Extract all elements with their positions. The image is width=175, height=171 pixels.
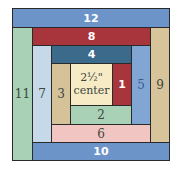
center-label: center	[74, 85, 110, 98]
strip-5-label: 5	[137, 79, 145, 91]
strip-1-label: 1	[118, 79, 126, 90]
strip-11: 11	[12, 27, 33, 161]
strip-3-label: 3	[57, 88, 65, 100]
strip-10: 10	[32, 142, 170, 161]
strip-6: 6	[51, 124, 151, 143]
strip-4: 4	[51, 45, 132, 64]
strip-8: 8	[32, 27, 151, 46]
strip-2: 2	[70, 105, 132, 125]
strip-11-label: 11	[15, 88, 30, 100]
strip-12-label: 12	[83, 13, 98, 24]
strip-10-label: 10	[93, 146, 108, 157]
strip-12: 12	[12, 8, 170, 28]
strip-9: 9	[150, 27, 170, 143]
strip-7-label: 7	[38, 88, 46, 100]
strip-2-label: 2	[97, 109, 105, 121]
strip-5: 5	[131, 45, 151, 125]
strip-8-label: 8	[88, 31, 96, 42]
strip-3: 3	[51, 63, 71, 125]
center-square: 2½" center	[70, 63, 113, 106]
center-size-label: 2½"	[80, 72, 103, 85]
strip-7: 7	[32, 45, 52, 143]
strip-4-label: 4	[88, 49, 96, 60]
quilt-block: 12 11 10 9 8 7 6 5 4 3 2 1 2½"	[12, 8, 170, 161]
strip-9-label: 9	[156, 79, 164, 91]
strip-1: 1	[112, 63, 132, 106]
strip-6-label: 6	[97, 128, 105, 140]
